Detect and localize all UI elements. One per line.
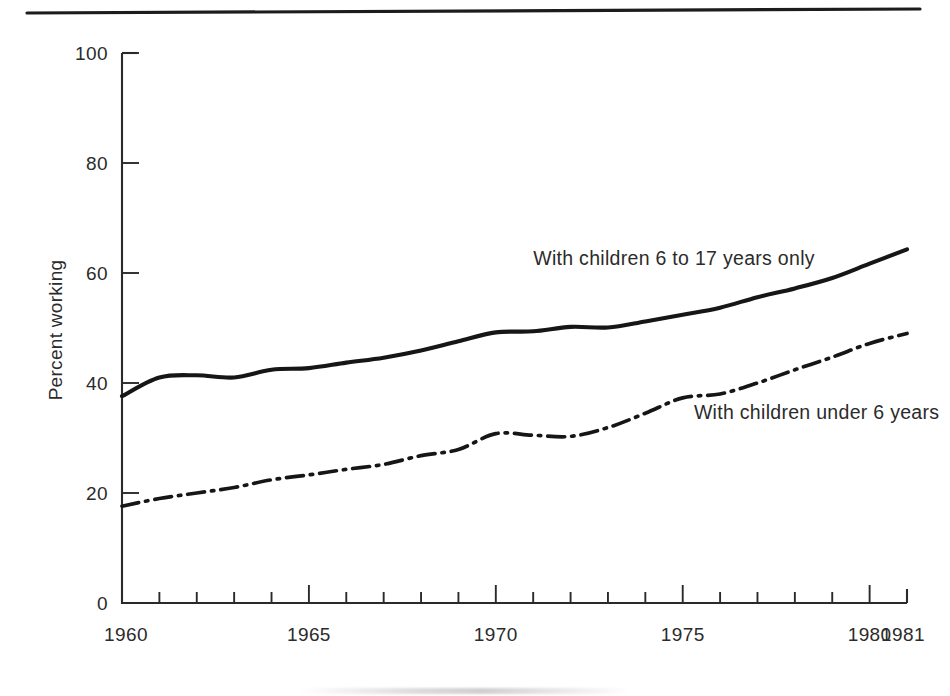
series-label-with-children-under-6: With children under 6 years: [694, 401, 939, 423]
y-tick-label-0: 0: [97, 593, 108, 614]
top-rule: [27, 9, 920, 13]
y-axis-ticks: [122, 53, 139, 493]
x-tick-label-1965: 1965: [287, 624, 331, 645]
y-tick-label-60: 60: [86, 263, 108, 284]
chart-figure: 020406080100 196019651970197519801981 Pe…: [0, 0, 950, 696]
y-tick-label-100: 100: [75, 43, 108, 64]
y-tick-label-40: 40: [86, 373, 108, 394]
series-line-with-children-6-to-17: [122, 249, 907, 396]
x-axis-tick-labels: 196019651970197519801981: [104, 624, 925, 645]
x-tick-label-1981: 1981: [881, 624, 925, 645]
x-tick-label-1960: 1960: [104, 624, 148, 645]
y-axis-tick-labels: 020406080100: [75, 43, 108, 614]
x-axis-ticks: [159, 585, 869, 603]
footer-artifact: [300, 688, 630, 694]
chart-canvas: 020406080100 196019651970197519801981 Pe…: [0, 0, 950, 696]
y-tick-label-20: 20: [86, 483, 108, 504]
y-tick-label-80: 80: [86, 153, 108, 174]
series-label-with-children-6-to-17: With children 6 to 17 years only: [533, 247, 815, 269]
x-tick-label-1970: 1970: [474, 624, 518, 645]
x-tick-label-1975: 1975: [661, 624, 705, 645]
y-axis-title: Percent working: [45, 260, 66, 401]
axes: [122, 53, 907, 603]
axis-lines: [122, 53, 907, 603]
